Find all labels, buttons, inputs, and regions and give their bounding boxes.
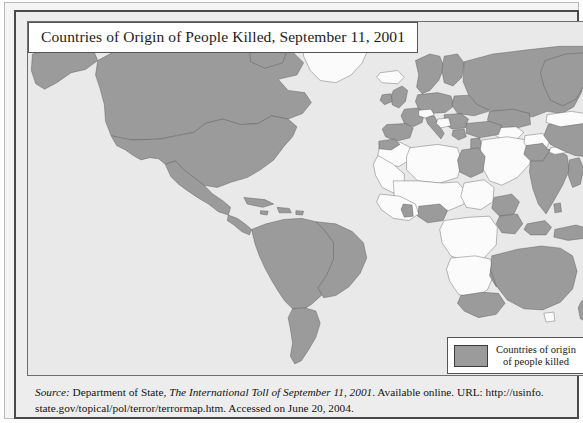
world-map-svg xyxy=(28,22,583,375)
source-note: Source: Department of State, The Interna… xyxy=(27,380,583,418)
figure-page: Countries of Origin of People Killed, Se… xyxy=(0,0,583,423)
legend-label: Countries of origin of people killed xyxy=(496,344,576,368)
map-title-box: Countries of Origin of People Killed, Se… xyxy=(28,22,418,53)
figure-inner-frame: Countries of Origin of People Killed, Se… xyxy=(14,10,579,419)
country-sri-lanka xyxy=(554,203,562,213)
map-legend: Countries of origin of people killed xyxy=(447,337,583,374)
source-url-part1: . Available online. URL: http://usinfo. xyxy=(372,386,543,398)
world-map xyxy=(27,21,583,376)
legend-label-line2: of people killed xyxy=(496,356,576,368)
figure-outer-frame: Countries of Origin of People Killed, Se… xyxy=(4,2,579,419)
source-work-title: The International Toll of September 11, … xyxy=(169,386,372,398)
source-publisher: Department of State, xyxy=(70,386,169,398)
page-title: Countries of Origin of People Killed, Se… xyxy=(41,28,405,45)
country-egypt xyxy=(457,148,485,178)
legend-label-line1: Countries of origin xyxy=(496,344,576,356)
country-algeria-libya xyxy=(407,144,462,183)
source-label: Source: xyxy=(35,386,70,398)
source-note-line1: Source: Department of State, The Interna… xyxy=(35,384,580,400)
source-note-line2: state.gov/topical/pol/terror/terrormap.h… xyxy=(35,400,580,416)
legend-swatch-shaded xyxy=(454,345,488,367)
country-tasmania xyxy=(544,312,555,322)
country-puerto-rico xyxy=(296,211,304,215)
